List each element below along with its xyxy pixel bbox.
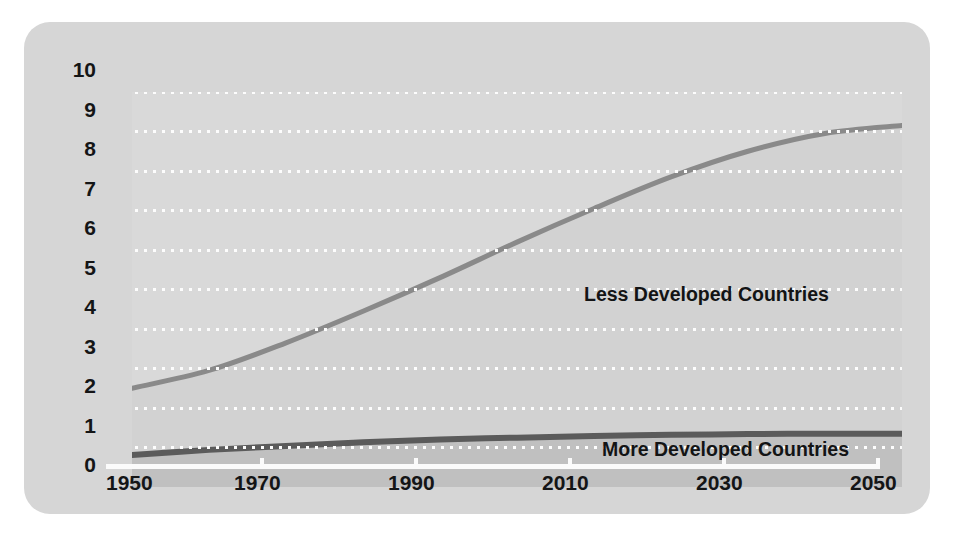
- y-axis-labels: 109876543210: [0, 0, 954, 537]
- x-tick-mark-2010: [568, 458, 572, 465]
- y-tick-label-7: 7: [52, 178, 96, 199]
- y-tick-label-6: 6: [52, 217, 96, 238]
- x-tick-label-1970: 1970: [234, 472, 281, 493]
- x-tick-mark-1990: [414, 458, 418, 465]
- y-tick-label-9: 9: [52, 99, 96, 120]
- y-tick-label-2: 2: [52, 375, 96, 396]
- x-tick-label-2030: 2030: [696, 472, 743, 493]
- y-tick-label-4: 4: [52, 296, 96, 317]
- x-tick-mark-2030: [722, 458, 726, 465]
- x-tick-label-1990: 1990: [388, 472, 435, 493]
- y-tick-label-0: 0: [52, 454, 96, 475]
- x-tick-mark-2050: [876, 458, 880, 465]
- y-tick-label-3: 3: [52, 336, 96, 357]
- y-tick-label-8: 8: [52, 138, 96, 159]
- x-tick-mark-1970: [260, 458, 264, 465]
- x-tick-label-1950: 1950: [106, 472, 153, 493]
- y-tick-label-10: 10: [52, 59, 96, 80]
- x-tick-label-2010: 2010: [542, 472, 589, 493]
- y-tick-label-1: 1: [52, 415, 96, 436]
- y-tick-label-5: 5: [52, 257, 96, 278]
- x-tick-label-2050: 2050: [850, 472, 897, 493]
